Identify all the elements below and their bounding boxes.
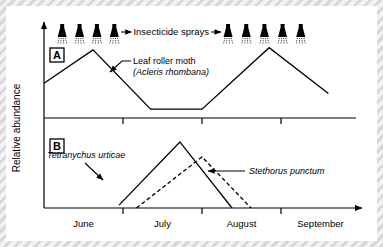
spray-plume-line — [242, 38, 243, 44]
spray-plume-line — [75, 38, 76, 44]
spray-icon-right-0 — [224, 24, 233, 44]
annotation-leaf-roller-moth-species-name: (Acleris rhombana) — [133, 67, 209, 77]
x-axis-label-july: July — [154, 218, 171, 229]
leader-tetranychus-urticae — [85, 163, 103, 180]
spray-plume-line — [65, 38, 66, 44]
annotation-tetranychus-urticae: Tetranychus urticae — [47, 150, 125, 160]
spray-plume-line — [224, 38, 225, 44]
x-axis-label-june: June — [73, 218, 94, 229]
annotation-leaf-roller-moth-common-name: Leaf roller moth — [133, 56, 196, 66]
spray-icon-right-3 — [278, 24, 287, 44]
spray-plume-line — [278, 38, 279, 44]
spray-icon-left-1 — [75, 24, 84, 44]
spray-can-body — [75, 24, 84, 37]
spray-can-body — [278, 24, 287, 37]
spray-can-body — [296, 24, 305, 37]
spray-plume-line — [249, 38, 250, 44]
spray-icon-right-2 — [260, 24, 269, 44]
spray-icon-right-1 — [242, 24, 251, 44]
spray-plume-line — [110, 38, 111, 44]
spray-can-body — [58, 24, 67, 37]
spray-icon-left-3 — [110, 24, 119, 44]
insecticide-spray-abundance-chart: JuneJulyAugustSeptemberRelative abundanc… — [0, 0, 383, 247]
spray-can-body — [260, 24, 269, 37]
y-axis-title: Relative abundance — [11, 83, 22, 172]
spray-can-body — [92, 24, 101, 37]
spray-plume-line — [58, 38, 59, 44]
series-stethorus-punctum — [136, 157, 251, 208]
spray-plume-line — [286, 38, 287, 44]
panel-label-text-a: A — [53, 49, 61, 61]
spray-plume-line — [231, 38, 232, 44]
x-axis-label-september: September — [297, 218, 343, 229]
spray-can-body — [224, 24, 233, 37]
labels-layer: JuneJulyAugustSeptemberRelative abundanc… — [11, 26, 344, 229]
insecticide-sprays-label: Insecticide sprays — [133, 26, 209, 37]
spray-icon-left-0 — [58, 24, 67, 44]
spray-plume-line — [296, 38, 297, 44]
x-axis-label-august: August — [227, 218, 257, 229]
spray-plume-line — [100, 38, 101, 44]
panel-label-a: A — [50, 48, 64, 62]
spray-plume-line — [118, 38, 119, 44]
annotation-stethorus-punctum: Stethorus punctum — [249, 166, 325, 176]
series-tetranychus-urticae — [119, 142, 232, 208]
spray-icon-right-4 — [296, 24, 305, 44]
spray-plume-line — [304, 38, 305, 44]
figure-root: JuneJulyAugustSeptemberRelative abundanc… — [0, 0, 383, 247]
spray-plume-line — [268, 38, 269, 44]
spray-plume-line — [92, 38, 93, 44]
spray-plume-line — [83, 38, 84, 44]
spray-can-body — [242, 24, 251, 37]
spray-can-body — [110, 24, 119, 37]
spray-icon-left-2 — [92, 24, 101, 44]
spray-plume-line — [260, 38, 261, 44]
